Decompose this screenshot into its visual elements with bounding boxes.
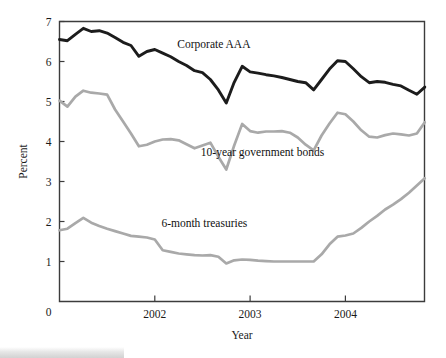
bottom-scroll-strip xyxy=(0,347,124,358)
x-tick-label-2004: 2004 xyxy=(334,308,357,320)
series-label-10-year-government-bonds: 10-year government bonds xyxy=(201,146,325,159)
y-tick-label-5: 5 xyxy=(46,96,52,108)
x-tick-label-2003: 2003 xyxy=(239,308,262,320)
series-label-corporate-aaa: Corporate AAA xyxy=(177,38,251,51)
y-tick-label-0: 0 xyxy=(46,306,52,318)
x-axis-title: Year xyxy=(231,329,252,341)
y-axis-title: Percent xyxy=(17,143,29,178)
series-label-6-month-treasuries: 6-month treasuries xyxy=(161,217,247,229)
y-tick-label-2: 2 xyxy=(46,216,52,228)
y-tick-label-3: 3 xyxy=(46,176,52,188)
interest-rates-line-chart: 01234567 200220032004 Corporate AAA10-ye… xyxy=(0,0,446,358)
y-axis-ticks: 01234567 xyxy=(46,16,65,318)
y-tick-label-6: 6 xyxy=(46,56,52,68)
y-tick-label-7: 7 xyxy=(46,16,52,28)
chart-container: 01234567 200220032004 Corporate AAA10-ye… xyxy=(0,0,446,358)
x-tick-label-2002: 2002 xyxy=(143,308,166,320)
x-axis-ticks: 200220032004 xyxy=(143,296,357,320)
y-tick-label-4: 4 xyxy=(46,136,52,148)
y-tick-label-1: 1 xyxy=(46,256,52,268)
